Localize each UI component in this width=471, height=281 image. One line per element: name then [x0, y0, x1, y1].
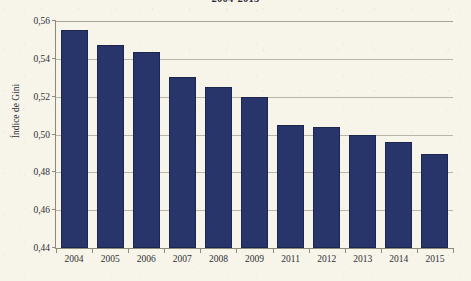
x-tick-mark	[309, 248, 310, 253]
bar	[277, 125, 304, 248]
x-tick-label: 2009	[245, 254, 264, 264]
bar	[133, 52, 160, 248]
y-tick-label: 0,44	[33, 243, 50, 253]
x-tick-mark	[345, 248, 346, 253]
x-tick-label: 2008	[209, 254, 228, 264]
x-tick-mark	[236, 248, 237, 253]
x-tick-label: 2005	[101, 254, 120, 264]
gini-index-bar-chart: 2004-2015 Índice de Gini 0,560,540,520,5…	[0, 0, 471, 281]
plot-area: 0,560,540,520,500,480,460,44 20042005200…	[55, 21, 453, 249]
bar	[385, 142, 412, 248]
bar	[205, 87, 232, 248]
bar	[169, 77, 196, 248]
x-tick-label: 2013	[353, 254, 372, 264]
x-tick-mark	[128, 248, 129, 253]
bar	[421, 154, 448, 248]
x-tick-mark	[417, 248, 418, 253]
x-tick-mark	[56, 248, 57, 253]
x-tick-label: 2012	[317, 254, 336, 264]
x-tick-mark	[381, 248, 382, 253]
bar	[241, 97, 268, 248]
x-tick-mark	[164, 248, 165, 253]
bars-container	[56, 21, 453, 248]
y-tick-label: 0,56	[33, 16, 50, 26]
x-tick-label: 2004	[65, 254, 84, 264]
x-tick-mark	[273, 248, 274, 253]
x-tick-label: 2015	[425, 254, 444, 264]
x-tick-label: 2011	[281, 254, 300, 264]
bar	[349, 135, 376, 249]
x-tick-label: 2006	[137, 254, 156, 264]
chart-title: 2004-2015	[0, 0, 471, 4]
bar	[97, 45, 124, 248]
bar	[313, 127, 340, 248]
x-tick-mark	[200, 248, 201, 253]
y-tick-label: 0,48	[33, 167, 50, 177]
x-tick-label: 2014	[389, 254, 408, 264]
x-tick-mark	[92, 248, 93, 253]
x-tick-mark	[453, 248, 454, 253]
y-tick-label: 0,46	[33, 205, 50, 215]
bar	[61, 30, 88, 248]
y-tick-label: 0,50	[33, 130, 50, 140]
x-tick-label: 2007	[173, 254, 192, 264]
y-tick-label: 0,54	[33, 54, 50, 64]
y-axis-title: Índice de Gini	[11, 51, 21, 171]
y-tick-label: 0,52	[33, 92, 50, 102]
